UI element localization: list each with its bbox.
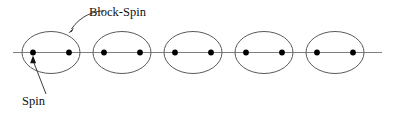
spin-dot [137, 50, 143, 56]
block-spin-annotation: Block-Spin [68, 5, 146, 33]
spin-dot [314, 50, 320, 56]
spin-dot [243, 50, 249, 56]
spin-label: Spin [22, 94, 46, 108]
spin-dot [208, 50, 214, 56]
spin-dot [30, 50, 36, 56]
block-spin-label: Block-Spin [89, 5, 147, 19]
spin-leader-line [34, 62, 46, 94]
spin-dot [66, 50, 72, 56]
figure-canvas: Block-Spin Spin [0, 0, 395, 114]
spin-dot [279, 50, 285, 56]
block-spin-arrow-icon [68, 27, 74, 33]
spin-dot [101, 50, 107, 56]
spin-arrow-icon [30, 56, 36, 64]
spin-dot [172, 50, 178, 56]
block-spin-figure: Block-Spin Spin [0, 0, 395, 114]
spin-dot [350, 50, 356, 56]
